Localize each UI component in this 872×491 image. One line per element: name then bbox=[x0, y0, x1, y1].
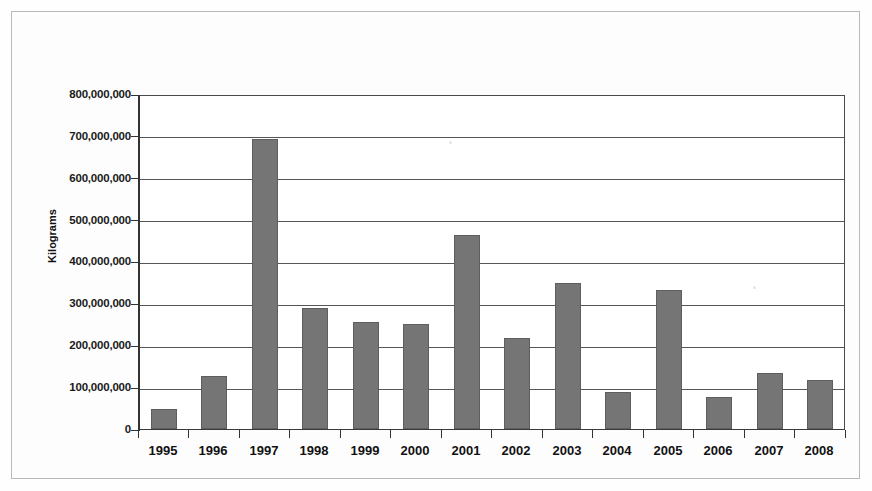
y-tick-label: 300,000,000 bbox=[69, 297, 131, 309]
x-tick-label-1998: 1998 bbox=[289, 443, 339, 458]
y-tick-mark bbox=[131, 95, 138, 96]
bar-2000[interactable] bbox=[403, 324, 429, 429]
bar-2008[interactable] bbox=[807, 380, 833, 429]
x-tick-label-1995: 1995 bbox=[138, 443, 188, 458]
x-tick-label-2005: 2005 bbox=[643, 443, 693, 458]
x-tick-mark bbox=[239, 430, 240, 438]
x-tick-label-2002: 2002 bbox=[491, 443, 541, 458]
x-tick-mark bbox=[592, 430, 593, 438]
y-tick-mark bbox=[131, 262, 138, 263]
bar-1996[interactable] bbox=[201, 376, 227, 429]
y-tick-label: 700,000,000 bbox=[69, 130, 131, 142]
y-axis-line bbox=[138, 95, 140, 431]
gridline bbox=[139, 137, 844, 138]
bar-2004[interactable] bbox=[605, 392, 631, 430]
chart-figure: Kilograms 800,000,000 700,000,000 600,00… bbox=[0, 0, 872, 491]
x-tick-mark bbox=[693, 430, 694, 438]
x-tick-mark bbox=[289, 430, 290, 438]
y-tick-label: 500,000,000 bbox=[69, 214, 131, 226]
x-tick-label-1997: 1997 bbox=[239, 443, 289, 458]
y-tick-mark bbox=[131, 388, 138, 389]
gridline bbox=[139, 305, 844, 306]
x-tick-mark bbox=[491, 430, 492, 438]
x-tick-label-2008: 2008 bbox=[794, 443, 844, 458]
x-tick-label-2000: 2000 bbox=[390, 443, 440, 458]
x-tick-label-2006: 2006 bbox=[693, 443, 743, 458]
y-tick-label: 100,000,000 bbox=[69, 381, 131, 393]
x-tick-label-2007: 2007 bbox=[744, 443, 794, 458]
y-tick-mark bbox=[131, 136, 138, 137]
bar-2005[interactable] bbox=[656, 290, 682, 429]
y-tick-mark bbox=[131, 346, 138, 347]
bar-2001[interactable] bbox=[454, 235, 480, 429]
x-tick-mark bbox=[188, 430, 189, 438]
gridline bbox=[139, 389, 844, 390]
bar-1998[interactable] bbox=[302, 308, 328, 429]
y-tick-mark bbox=[131, 178, 138, 179]
x-tick-label-2004: 2004 bbox=[592, 443, 642, 458]
bar-chart: Kilograms 800,000,000 700,000,000 600,00… bbox=[0, 0, 872, 491]
x-tick-mark bbox=[744, 430, 745, 438]
x-tick-mark bbox=[794, 430, 795, 438]
y-tick-label: 0 bbox=[125, 423, 131, 435]
y-tick-mark bbox=[131, 430, 138, 431]
gridline bbox=[139, 263, 844, 264]
bar-2003[interactable] bbox=[555, 283, 581, 429]
bar-1995[interactable] bbox=[151, 409, 177, 429]
y-tick-label: 200,000,000 bbox=[69, 339, 131, 351]
x-tick-mark bbox=[542, 430, 543, 438]
y-axis-tick-labels: 800,000,000 700,000,000 600,000,000 500,… bbox=[28, 0, 131, 491]
gridline bbox=[139, 179, 844, 180]
y-tick-mark bbox=[131, 220, 138, 221]
y-tick-label: 600,000,000 bbox=[69, 172, 131, 184]
x-tick-mark bbox=[390, 430, 391, 438]
bar-2006[interactable] bbox=[706, 397, 732, 430]
bar-2002[interactable] bbox=[504, 338, 530, 429]
bar-1997[interactable] bbox=[252, 139, 278, 430]
gridline bbox=[139, 221, 844, 222]
x-tick-label-1999: 1999 bbox=[340, 443, 390, 458]
x-tick-label-2001: 2001 bbox=[441, 443, 491, 458]
x-tick-label-1996: 1996 bbox=[188, 443, 238, 458]
bar-1999[interactable] bbox=[353, 322, 379, 429]
y-tick-mark bbox=[131, 304, 138, 305]
x-tick-mark bbox=[643, 430, 644, 438]
x-tick-mark bbox=[340, 430, 341, 438]
paper-speckle bbox=[753, 286, 756, 289]
bar-2007[interactable] bbox=[757, 373, 783, 429]
plot-area bbox=[138, 95, 845, 430]
x-tick-label-2003: 2003 bbox=[542, 443, 592, 458]
y-tick-label: 800,000,000 bbox=[69, 88, 131, 100]
gridline bbox=[139, 347, 844, 348]
paper-speckle bbox=[449, 141, 452, 144]
x-tick-mark bbox=[441, 430, 442, 438]
x-tick-mark bbox=[845, 430, 846, 438]
x-tick-mark bbox=[138, 430, 139, 438]
y-tick-label: 400,000,000 bbox=[69, 255, 131, 267]
